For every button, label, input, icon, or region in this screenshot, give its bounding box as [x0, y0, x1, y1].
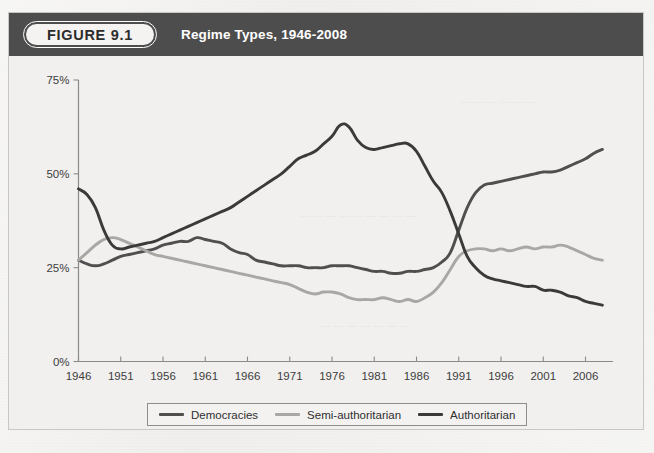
- y-axis-ticks: 0%25%50%75%: [46, 74, 78, 368]
- legend-item[interactable]: Democracies: [159, 409, 258, 421]
- legend-line-swatch-icon: [275, 413, 300, 416]
- y-axis-tick-label: 75%: [46, 74, 69, 86]
- x-axis-tick-label: 1946: [66, 370, 92, 382]
- legend-item-label: Democracies: [191, 409, 258, 421]
- x-axis-tick-label: 1971: [277, 370, 303, 382]
- legend-line-swatch-icon: [159, 413, 184, 416]
- figure-number-badge-inner: FIGURE 9.1: [26, 24, 154, 45]
- x-axis-tick-label: 1951: [108, 370, 134, 382]
- x-axis-tick-label: 2006: [573, 370, 599, 382]
- x-axis-tick-label: 1966: [235, 370, 261, 382]
- figure-number-label: FIGURE 9.1: [47, 27, 133, 43]
- y-axis-tick-label: 25%: [46, 262, 69, 274]
- figure-number-badge: FIGURE 9.1: [23, 21, 157, 48]
- chart-legend: Democracies Semi-authoritarian Authorita…: [147, 403, 527, 426]
- series-line-authoritarian: [79, 124, 603, 305]
- figure-header-bar: FIGURE 9.1 Regime Types, 1946-2008: [9, 13, 643, 56]
- figure-container: — — — — — — — — — — — — — — — — — — — — …: [0, 0, 654, 453]
- x-axis-tick-label: 2001: [530, 370, 556, 382]
- legend-line-swatch-icon: [418, 413, 443, 416]
- x-axis-tick-label: 1981: [361, 370, 387, 382]
- x-axis-tick-label: 1976: [319, 370, 345, 382]
- legend-item[interactable]: Semi-authoritarian: [275, 409, 401, 421]
- figure-title: Regime Types, 1946-2008: [181, 27, 347, 42]
- x-axis-ticks: 1946195119561961196619711976198119861991…: [66, 357, 599, 382]
- legend-item-label: Authoritarian: [450, 409, 515, 421]
- x-axis-tick-label: 1996: [488, 370, 514, 382]
- line-chart-svg: 0%25%50%75% 1946195119561961196619711976…: [9, 56, 643, 430]
- y-axis-tick-label: 0%: [53, 356, 70, 368]
- x-axis-tick-label: 1986: [404, 370, 430, 382]
- legend-item-label: Semi-authoritarian: [307, 409, 401, 421]
- x-axis-tick-label: 1956: [150, 370, 176, 382]
- x-axis-tick-label: 1961: [192, 370, 218, 382]
- chart-plot-area: 0%25%50%75% 1946195119561961196619711976…: [9, 56, 643, 430]
- y-axis-tick-label: 50%: [46, 168, 69, 180]
- data-series-group: [79, 124, 603, 305]
- x-axis-tick-label: 1991: [446, 370, 472, 382]
- legend-item[interactable]: Authoritarian: [418, 409, 515, 421]
